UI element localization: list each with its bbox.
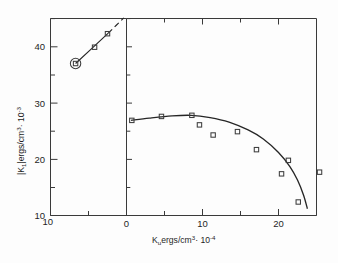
data-point-marker: [279, 172, 283, 176]
left-fit-dashed-path: [108, 18, 124, 33]
x-title-units: ergs/cm: [161, 235, 192, 245]
y-title-units: ergs/cm: [16, 131, 26, 162]
data-point-marker: [317, 170, 321, 174]
x-tick-label-20: 20: [273, 218, 284, 229]
y-tick-label-20: 20: [34, 154, 45, 165]
data-point-marker: [296, 200, 300, 204]
right-fit-path: [131, 115, 307, 209]
y-tick-label-30: 30: [34, 98, 45, 109]
left-branch-dashed-line: [108, 18, 124, 33]
x-axis-ticks: [51, 209, 317, 216]
scatter-plot: 40 30 20 10 10 0 10 20 Kuergs/cm3· 10-4 …: [0, 0, 338, 263]
plot-frame: [51, 19, 317, 216]
right-branch-markers: [130, 113, 322, 204]
data-point-marker: [197, 123, 201, 127]
y-axis-title: |K1|ergs/cm3· 10-3: [15, 106, 27, 175]
y-title-mult-exp: -3: [15, 106, 22, 112]
x-axis-title: Kuergs/cm3· 10-4: [152, 234, 216, 246]
data-point-marker: [235, 129, 239, 133]
x-tick-label-neg10: 10: [43, 216, 54, 227]
zero-axis-ticks: [127, 19, 133, 188]
figure-container: 40 30 20 10 10 0 10 20 Kuergs/cm3· 10-4 …: [0, 0, 338, 263]
top-frame-ticks: [165, 19, 279, 25]
data-point-marker: [211, 133, 215, 137]
data-point-marker: [254, 147, 258, 151]
right-branch-fit-curve: [131, 115, 307, 209]
x-tick-label-0: 0: [124, 218, 129, 229]
y-axis-ticks: [51, 19, 58, 216]
x-tick-label-10: 10: [197, 218, 208, 229]
svg-text:|K1|ergs/cm3· 10-3: |K1|ergs/cm3· 10-3: [15, 106, 27, 175]
x-title-mult-exp: -4: [210, 234, 216, 241]
y-title-mult: · 10: [16, 112, 26, 127]
y-tick-label-40: 40: [34, 41, 45, 52]
x-title-mult: · 10: [195, 235, 210, 245]
svg-text:Kuergs/cm3· 10-4: Kuergs/cm3· 10-4: [152, 234, 216, 246]
